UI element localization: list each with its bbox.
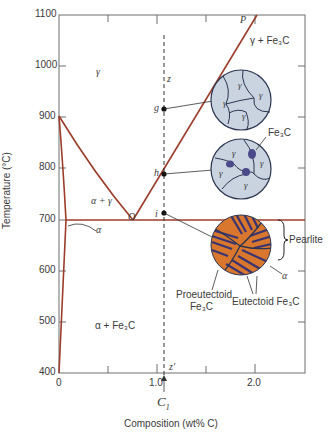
grain-label-gamma-3: γ (259, 90, 263, 100)
grain-label-gamma-7: γ (260, 158, 264, 168)
label-alpha-fe3c: α + Fe₃C (95, 320, 135, 331)
point-label-p: P (240, 14, 246, 25)
point-label-h: h (154, 167, 159, 178)
y-axis-title: Temperature (°C) (1, 152, 12, 229)
label-alpha: α (96, 224, 101, 235)
y-tick-500: 500 (39, 315, 56, 326)
grain-label-gamma-1: γ (238, 80, 242, 90)
label-pearlite: Pearlite (289, 234, 323, 245)
phase-diagram: 1100 1000 900 800 700 600 500 400 0 1.0 … (0, 0, 332, 440)
c1-label: C1 (157, 394, 170, 412)
label-fe3c-particle: Fe₃C (268, 127, 291, 138)
label-proeutectoid-fe3c: Fe₃C (190, 301, 213, 312)
label-eutectoid-fe3c: Eutectoid Fe₃C (232, 296, 299, 307)
label-alpha-ferrite: α (282, 270, 287, 281)
grain-label-gamma-6: γ (219, 168, 223, 178)
point-label-i: i (155, 208, 158, 219)
label-gamma-fe3c: γ + Fe₃C (250, 35, 289, 46)
x-tick-1: 1.0 (149, 377, 163, 388)
label-gamma: γ (96, 66, 100, 77)
x-axis-title: Composition (wt% C) (124, 418, 218, 429)
y-tick-800: 800 (39, 161, 56, 172)
grain-label-gamma-2: γ (223, 98, 227, 108)
grain-label-gamma-5: γ (232, 148, 236, 158)
y-tick-1000: 1000 (35, 59, 57, 70)
y-tick-400: 400 (39, 366, 56, 377)
grain-label-gamma-4: γ (242, 111, 246, 121)
point-label-z-prime: z′ (169, 361, 175, 372)
label-alpha-gamma: α + γ (91, 195, 112, 206)
x-tick-2: 2.0 (247, 377, 261, 388)
grain-label-gamma-8: γ (244, 180, 248, 190)
y-tick-1100: 1100 (35, 8, 57, 19)
point-label-g: g (154, 102, 159, 113)
y-tick-600: 600 (39, 264, 56, 275)
point-label-o: O (128, 211, 135, 222)
label-proeutectoid: Proeutectoid (176, 289, 232, 300)
point-label-z: z (167, 73, 171, 84)
x-tick-0: 0 (56, 377, 62, 388)
microstructure-gamma (211, 70, 271, 130)
alpha-solvus (59, 116, 66, 373)
y-tick-700: 700 (39, 213, 56, 224)
y-tick-900: 900 (39, 110, 56, 121)
